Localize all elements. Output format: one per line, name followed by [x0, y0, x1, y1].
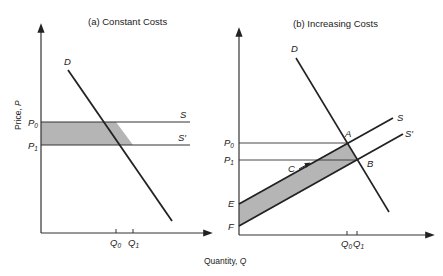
label-d-a: D — [64, 56, 71, 67]
chart-canvas: (a) Constant Costs D S S′ P0 P1 Q0 Q1 Pr… — [0, 0, 443, 276]
label-p0-b: P0 — [224, 137, 234, 149]
shaded-area-a — [41, 122, 133, 145]
label-f: F — [228, 221, 235, 232]
supply-s-prime-b — [239, 134, 403, 226]
label-s-a: S — [180, 109, 187, 120]
label-q1-a: Q1 — [128, 237, 139, 249]
shaded-area-b — [239, 143, 357, 226]
label-s-b: S — [397, 112, 404, 123]
x-axis-title: Quantity, Q — [204, 256, 247, 266]
y-axis-title: Price, P — [13, 100, 23, 130]
label-q0-b: Q0 — [341, 238, 352, 250]
label-p1-b: P1 — [224, 154, 234, 166]
label-s-prime-a: S′ — [178, 132, 187, 143]
demand-d-b — [296, 58, 389, 212]
panel-b-title: (b) Increasing Costs — [293, 18, 378, 29]
panel-b: (b) Increasing Costs D S S′ A B C E F P0… — [224, 18, 430, 250]
label-e: E — [228, 198, 235, 209]
label-p1-a: P1 — [28, 140, 38, 152]
label-p0-a: P0 — [28, 117, 38, 129]
label-b: B — [367, 158, 374, 169]
label-s-prime-b: S′ — [405, 128, 414, 139]
label-q0-a: Q0 — [110, 237, 121, 249]
panel-a: (a) Constant Costs D S S′ P0 P1 Q0 Q1 Pr… — [13, 16, 208, 249]
label-c: C — [288, 163, 295, 174]
label-a: A — [344, 128, 351, 139]
label-d-b: D — [291, 43, 298, 54]
label-q1-b: Q1 — [353, 238, 364, 250]
panel-a-title: (a) Constant Costs — [88, 16, 167, 27]
